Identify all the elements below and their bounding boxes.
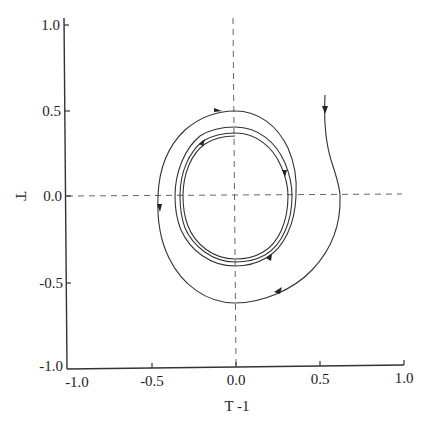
y-axis-label: T [13, 191, 29, 200]
x-tick-label: 0.0 [227, 372, 246, 388]
arrow-down-start-icon [322, 106, 328, 114]
x-tick-label: -1.0 [65, 374, 89, 390]
y-tick-label: 0.0 [43, 188, 62, 204]
y-tick-label: -1.0 [39, 358, 63, 374]
vertical-zero-reference-line [233, 18, 236, 366]
arrow-lower-right-icon [274, 287, 282, 294]
trajectory-curve [158, 95, 340, 303]
y-axis [64, 18, 67, 369]
x-axis-label: T -1 [224, 398, 249, 414]
x-tick-label: 0.5 [311, 371, 330, 387]
x-tick-label: 1.0 [395, 370, 414, 386]
arrow-inner-bottom-icon [266, 254, 272, 261]
y-tick-label: 0.5 [42, 103, 61, 119]
phase-plot: 1.0 0.5 0.0 -0.5 -1.0 -1.0 -0.5 0.0 0.5 … [0, 0, 425, 422]
y-tick-label: 1.0 [41, 17, 60, 33]
y-tick-label: -0.5 [39, 275, 63, 291]
arrow-top-right-icon [214, 108, 222, 112]
x-tick-label: -0.5 [140, 373, 164, 389]
